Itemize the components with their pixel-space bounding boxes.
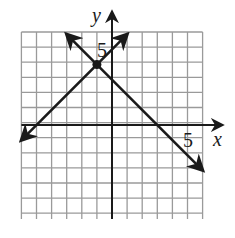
y-axis-label: y xyxy=(90,4,101,27)
coordinate-plane: y x 5 5 xyxy=(0,0,235,238)
x-axis-label: x xyxy=(212,128,222,150)
intersection-point xyxy=(92,60,101,69)
x-tick-label-5: 5 xyxy=(183,129,193,151)
y-tick-label-5: 5 xyxy=(97,39,107,61)
